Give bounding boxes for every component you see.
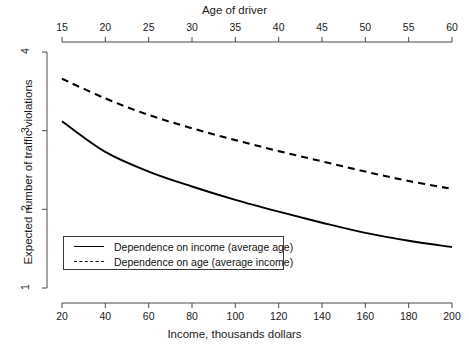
legend-label-income: Dependence on income (average age) (114, 241, 293, 253)
legend-entry-income: Dependence on income (average age) (72, 239, 293, 254)
series-line-age (62, 79, 452, 189)
legend-entry-age: Dependence on age (average income) (72, 254, 293, 269)
legend-label-age: Dependence on age (average income) (114, 256, 293, 268)
plot-canvas (0, 0, 469, 349)
legend-line-dashed-icon (72, 256, 106, 267)
legend-line-solid-icon (72, 241, 106, 252)
chart-figure: Age of driver Income, thousands dollars … (0, 0, 469, 349)
data-series-layer (62, 79, 452, 247)
legend: Dependence on income (average age) Depen… (63, 236, 284, 270)
series-line-income (62, 121, 452, 247)
